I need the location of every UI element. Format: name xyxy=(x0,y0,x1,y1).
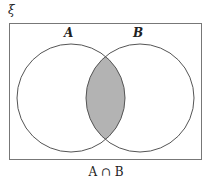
set-a-label: A xyxy=(64,26,73,40)
set-b-label: B xyxy=(133,26,143,40)
universal-set-label: ξ xyxy=(8,3,15,17)
intersection-region xyxy=(86,44,194,152)
venn-diagram xyxy=(0,0,212,187)
caption: A ∩ B xyxy=(0,165,212,179)
